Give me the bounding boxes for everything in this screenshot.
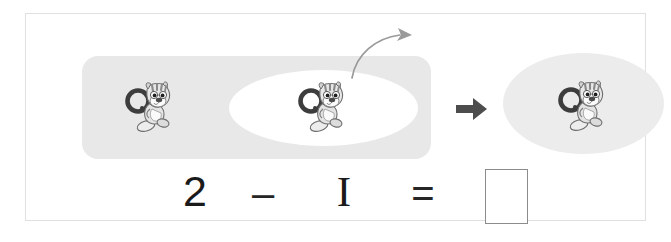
equation-subtrahend: I — [323, 170, 365, 213]
tiger-cub-icon — [558, 75, 610, 133]
illustration-area — [26, 14, 671, 164]
tiger-cub-icon — [298, 76, 350, 134]
tiger-cub-icon — [125, 76, 177, 134]
result-arrow-icon — [454, 94, 490, 124]
answer-input-box[interactable] — [485, 169, 528, 224]
equals-sign: = — [401, 173, 445, 213]
removal-arrow-icon — [332, 24, 422, 82]
minus-sign: – — [241, 173, 285, 213]
worksheet-frame: 2 – I = — [25, 13, 646, 221]
worksheet-page: 2 – I = — [0, 0, 671, 242]
equation-minuend: 2 — [174, 170, 216, 213]
equation-row: 2 – I = — [51, 166, 671, 235]
